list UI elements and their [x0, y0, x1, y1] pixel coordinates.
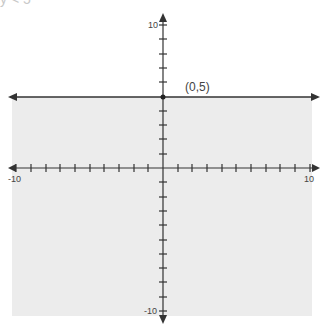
y-axis-down-arrow-icon — [159, 315, 167, 324]
x-axis-right-arrow-icon — [312, 164, 320, 172]
y-tick-label-max: 10 — [148, 20, 158, 30]
y-axis-up-arrow-icon — [159, 13, 167, 22]
intercept-point — [161, 95, 166, 100]
coordinate-plane: (0,5) -10 10 10 -10 — [0, 0, 334, 333]
point-label: (0,5) — [185, 80, 210, 94]
y-tick-label-min: -10 — [144, 306, 157, 316]
shaded-region — [12, 97, 312, 316]
boundary-right-arrow-icon — [311, 93, 320, 101]
x-tick-label-min: -10 — [8, 174, 21, 184]
x-tick-label-max: 10 — [304, 174, 314, 184]
